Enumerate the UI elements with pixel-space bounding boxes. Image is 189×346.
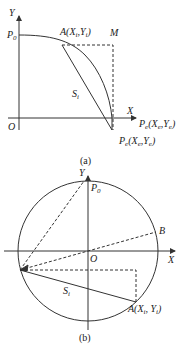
y-axis-label-b: Y [79,168,85,178]
b-label: B [159,226,165,236]
p0-label-b: P0 [91,183,101,195]
pe-label-2: Pe(Xe,Ye) [119,136,155,148]
y-axis-label-a: Y [9,8,15,18]
dash-p0-b [20,181,84,270]
pe-label-1: Pe(Xe,Ye) [139,119,175,131]
m-label-a: M [110,28,118,38]
diagram-canvas [0,0,189,346]
point-a-label-a: A(Xi,Yi) [60,27,91,39]
origin-label-a: O [8,122,15,132]
p0-label-a: P0 [7,30,17,42]
origin-label-b: O [90,254,97,264]
chord-b [20,270,136,302]
area-label-a: Si [72,89,79,101]
point-a-label-b: A(Xi, Yi) [128,304,161,316]
x-axis-label-b: X [168,255,174,265]
x-axis-label-a: X [127,106,133,116]
area-label-b: Si [63,286,70,298]
caption-b: (b) [79,333,91,343]
caption-a: (a) [80,156,91,166]
